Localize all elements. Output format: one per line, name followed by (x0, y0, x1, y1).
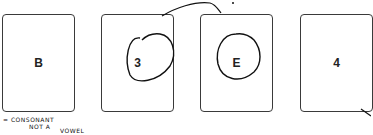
annotation-line-3: VOWEL (60, 127, 84, 134)
card-4-label: 4 (301, 56, 372, 70)
card-e[interactable]: E (200, 14, 273, 112)
annotation-line-2: NOT A (29, 123, 50, 130)
annotation-line-1: = CONSONANT (3, 116, 54, 123)
card-b[interactable]: B (2, 14, 75, 112)
card-3[interactable]: 3 (101, 14, 174, 112)
card-b-label: B (3, 56, 74, 70)
card-4[interactable]: 4 (300, 14, 373, 112)
card-e-label: E (201, 56, 272, 70)
card-3-label: 3 (102, 56, 173, 70)
dot-mark (232, 2, 234, 4)
